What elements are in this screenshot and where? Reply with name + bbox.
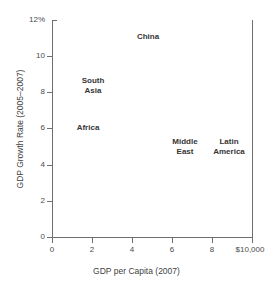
plot-frame-right-line xyxy=(252,20,253,238)
data-label-south-asia: South Asia xyxy=(82,76,105,95)
x-axis-title: GDP per Capita (2007) xyxy=(0,266,273,276)
x-tick-0 xyxy=(52,238,53,243)
y-tick-label-8: 8 xyxy=(41,87,45,96)
data-label-middle-east: Middle East xyxy=(172,137,197,156)
x-tick-8 xyxy=(212,238,213,243)
scatter-chart: 12% 10 8 6 4 2 0 0 2 4 6 8 $10,000 GDP p… xyxy=(0,0,273,288)
y-tick-label-0: 0 xyxy=(41,232,45,241)
data-label-latin-america: Latin America xyxy=(213,137,245,156)
x-tick-label-8: 8 xyxy=(210,245,214,254)
y-tick-label-6: 6 xyxy=(41,123,45,132)
x-tick-4 xyxy=(132,238,133,243)
y-tick-6 xyxy=(47,128,52,129)
y-tick-4 xyxy=(47,165,52,166)
x-tick-2 xyxy=(92,238,93,243)
y-tick-label-12: 12% xyxy=(29,15,45,24)
x-tick-10 xyxy=(252,238,253,243)
x-tick-label-4: 4 xyxy=(130,245,134,254)
y-tick-8 xyxy=(47,92,52,93)
y-tick-12 xyxy=(52,20,57,21)
y-tick-2 xyxy=(47,201,52,202)
x-tick-label-2: 2 xyxy=(90,245,94,254)
data-label-africa: Africa xyxy=(77,123,100,133)
x-tick-6 xyxy=(172,238,173,243)
y-tick-label-2: 2 xyxy=(41,196,45,205)
y-tick-10 xyxy=(47,56,52,57)
data-label-china: China xyxy=(137,32,159,42)
x-tick-label-0: 0 xyxy=(50,245,54,254)
x-tick-label-10: $10,000 xyxy=(236,245,265,254)
y-axis-title: GDP Growth Rate (2005–2007) xyxy=(15,39,25,219)
y-tick-label-4: 4 xyxy=(41,160,45,169)
y-axis-line xyxy=(52,20,53,238)
x-axis-line xyxy=(52,237,253,238)
y-tick-label-10: 10 xyxy=(36,51,45,60)
x-tick-label-6: 6 xyxy=(170,245,174,254)
